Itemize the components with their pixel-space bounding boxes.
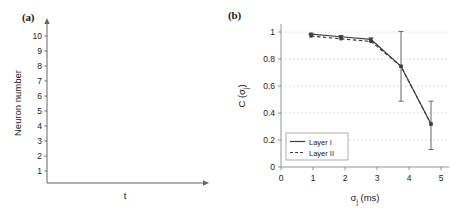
panel-a-ytick-1: 1 bbox=[37, 166, 42, 176]
panel-b-ytick-0-6: 0.6 bbox=[263, 81, 275, 91]
panel-b-xtick-0: 0 bbox=[279, 173, 284, 183]
panel-a-ytick-6: 6 bbox=[37, 91, 42, 101]
panel-a-ytick-3: 3 bbox=[37, 136, 42, 146]
panel-a-ytick-4: 4 bbox=[37, 121, 42, 131]
panel-a-y-axis-arrow bbox=[44, 18, 49, 24]
panel-a-y-axis-label: Neuron number bbox=[12, 70, 23, 136]
panel-b-series-group bbox=[309, 32, 432, 125]
panel-b-correlation-plot: (b) bbox=[225, 0, 451, 220]
panel-b-ytick-0-2: 0.2 bbox=[263, 135, 275, 145]
panel-b-xtick-4: 4 bbox=[407, 173, 412, 183]
panel-b-gridlines bbox=[281, 32, 447, 140]
panel-a-ytick-9: 9 bbox=[37, 46, 42, 56]
data-point-marker bbox=[369, 40, 372, 43]
panel-a-ytick-8: 8 bbox=[37, 61, 42, 71]
panel-b-xtick-3: 3 bbox=[375, 173, 380, 183]
data-point-marker bbox=[429, 122, 432, 125]
panel-a-svg: 1 2 3 4 5 6 7 8 9 10 Neuron number t bbox=[0, 0, 225, 220]
panel-b-legend[interactable]: Layer I Layer II bbox=[286, 133, 348, 160]
panel-b-ytick-0: 0 bbox=[270, 162, 275, 172]
panel-a-x-axis-label: t bbox=[124, 190, 127, 201]
panel-b-svg: 0 0.2 0.4 0.6 0.8 1 0 1 2 3 4 5 C (σj) σ… bbox=[225, 0, 451, 220]
panel-b-label: (b) bbox=[228, 9, 241, 21]
figure-container: (a) 1 2 3 bbox=[0, 0, 451, 220]
panel-a-spike-raster: (a) 1 2 3 bbox=[0, 0, 225, 220]
data-point-marker bbox=[309, 34, 312, 37]
panel-b-errorbar-group bbox=[309, 31, 434, 149]
data-point-marker bbox=[399, 65, 402, 68]
panel-a-ytick-2: 2 bbox=[37, 151, 42, 161]
legend-label-layer-ii: Layer II bbox=[309, 149, 334, 158]
panel-b-xtick-2: 2 bbox=[343, 173, 348, 183]
panel-a-x-axis-arrow bbox=[203, 180, 209, 185]
panel-a-ytick-10: 10 bbox=[33, 31, 43, 41]
data-point-marker bbox=[339, 37, 342, 40]
panel-b-ytick-1: 1 bbox=[270, 27, 275, 37]
panel-b-xtick-1: 1 bbox=[311, 173, 316, 183]
panel-b-ylabel-c: C ( bbox=[236, 94, 247, 108]
panel-b-ytick-0-8: 0.8 bbox=[263, 54, 275, 64]
panel-a-label: (a) bbox=[22, 11, 34, 23]
series-line-layer-ii bbox=[311, 36, 431, 124]
svg-text:C (σj): C (σj) bbox=[236, 84, 250, 107]
panel-a-ytick-7: 7 bbox=[37, 76, 42, 86]
panel-b-xtick-5: 5 bbox=[439, 173, 444, 183]
panel-b-ytick-0-4: 0.4 bbox=[263, 108, 275, 118]
panel-b-ylabel-close: ) bbox=[236, 84, 247, 87]
panel-a-ytick-5: 5 bbox=[37, 106, 42, 116]
legend-label-layer-i: Layer I bbox=[309, 138, 332, 147]
panel-b-x-axis-label: σj (ms) bbox=[351, 192, 380, 206]
panel-b-y-axis-label: C (σj) bbox=[236, 84, 250, 107]
series-line-layer-i bbox=[311, 34, 431, 124]
panel-b-y-ticks bbox=[278, 32, 281, 167]
panel-a-spike-group bbox=[64, 29, 185, 175]
panel-b-xlabel-units: (ms) bbox=[358, 192, 380, 203]
